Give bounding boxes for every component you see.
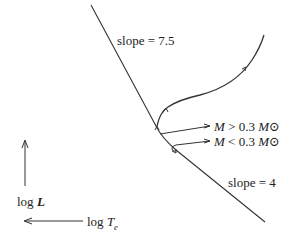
relation: > 0.3 <box>225 119 258 134</box>
solar-mass-unit: M⊙ <box>258 119 280 134</box>
upper-slope-label: slope = 7.5 <box>117 34 175 47</box>
x-axis-label: log Te <box>87 215 118 232</box>
y-axis-label: log L <box>17 195 45 208</box>
evolutionary-track <box>157 35 264 126</box>
temperature-subscript: e <box>114 222 118 232</box>
mass-symbol: M <box>214 134 225 149</box>
log-prefix: log <box>17 194 37 209</box>
relation: < 0.3 <box>225 134 258 149</box>
pointer-high-mass <box>160 126 210 134</box>
log-prefix: log <box>87 214 107 229</box>
lower-slope-label: slope = 4 <box>228 176 276 189</box>
mass-high-label: M > 0.3 M⊙ <box>214 120 280 133</box>
solar-mass-unit: M⊙ <box>258 134 280 149</box>
mass-low-label: M < 0.3 M⊙ <box>214 135 280 148</box>
luminosity-var: L <box>37 194 45 209</box>
mass-symbol: M <box>214 119 225 134</box>
